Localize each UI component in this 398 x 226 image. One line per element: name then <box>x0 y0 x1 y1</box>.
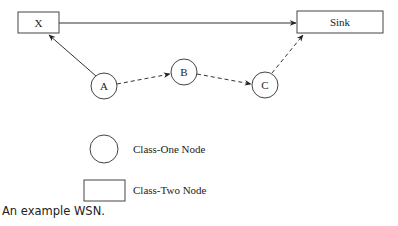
node-b: B <box>171 59 197 85</box>
legend-rect-icon <box>84 180 125 201</box>
node-b-label: B <box>180 66 187 78</box>
node-x-label: X <box>35 17 43 29</box>
figure-caption: An example WSN. <box>2 204 105 218</box>
edge-c-to-sink <box>272 35 303 73</box>
legend: Class-One Node Class-Two Node <box>84 135 207 201</box>
edge-a-to-b <box>117 74 170 84</box>
edge-a-to-x <box>49 35 96 76</box>
node-c: C <box>252 72 278 98</box>
legend-class-one-label: Class-One Node <box>133 143 206 155</box>
node-x: X <box>18 12 59 33</box>
wsn-diagram: X Sink A B C Class-One Node Class-Two No… <box>0 0 398 226</box>
legend-circle-icon <box>90 135 118 163</box>
edge-b-to-c <box>197 74 251 84</box>
node-a: A <box>91 73 117 99</box>
node-c-label: C <box>261 79 268 91</box>
legend-class-two-label: Class-Two Node <box>133 184 207 196</box>
node-a-label: A <box>100 80 108 92</box>
node-sink: Sink <box>297 11 383 33</box>
node-sink-label: Sink <box>330 16 351 28</box>
